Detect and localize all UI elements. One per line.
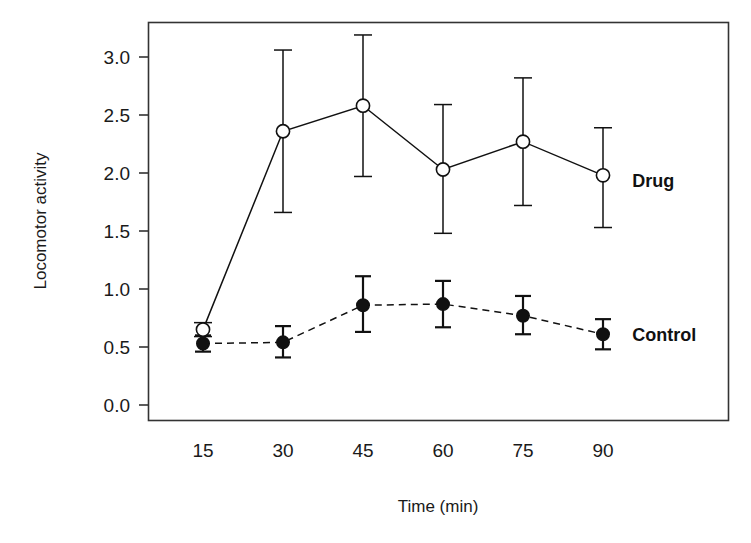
x-tick-label: 90 — [592, 440, 613, 461]
x-tick-label: 75 — [512, 440, 533, 461]
series-label-control: Control — [632, 325, 696, 345]
data-point-control-30 — [277, 336, 289, 348]
y-axis-ticks — [139, 57, 149, 405]
data-point-control-45 — [357, 299, 369, 311]
data-point-control-75 — [517, 309, 529, 321]
locomotor-activity-line-chart: 0.00.51.01.52.02.53.0 153045607590 DrugC… — [0, 0, 751, 543]
data-point-drug-30 — [276, 125, 289, 138]
series-label-drug: Drug — [632, 171, 674, 191]
data-point-drug-90 — [596, 169, 609, 182]
y-axis-title: Locomotor activity — [31, 152, 50, 289]
x-tick-label: 15 — [192, 440, 213, 461]
data-point-control-15 — [197, 337, 209, 349]
y-tick-label: 3.0 — [104, 47, 130, 68]
y-tick-label: 1.0 — [104, 279, 130, 300]
x-axis-title: Time (min) — [398, 497, 479, 516]
x-tick-label: 60 — [432, 440, 453, 461]
x-tick-label: 30 — [272, 440, 293, 461]
data-point-control-60 — [437, 298, 449, 310]
y-tick-label: 0.0 — [104, 395, 130, 416]
plot-frame — [149, 23, 729, 421]
y-tick-label: 1.5 — [104, 221, 130, 242]
y-tick-label: 0.5 — [104, 337, 130, 358]
x-tick-label: 45 — [352, 440, 373, 461]
y-axis-tick-labels: 0.00.51.01.52.02.53.0 — [104, 47, 130, 416]
y-tick-label: 2.0 — [104, 163, 130, 184]
figure-container: 0.00.51.01.52.02.53.0 153045607590 DrugC… — [0, 0, 751, 543]
data-point-control-90 — [597, 328, 609, 340]
data-point-drug-60 — [436, 163, 449, 176]
y-tick-label: 2.5 — [104, 105, 130, 126]
data-point-drug-45 — [356, 99, 369, 112]
data-point-drug-15 — [196, 323, 209, 336]
x-axis-tick-labels: 153045607590 — [192, 440, 613, 461]
data-point-drug-75 — [516, 135, 529, 148]
